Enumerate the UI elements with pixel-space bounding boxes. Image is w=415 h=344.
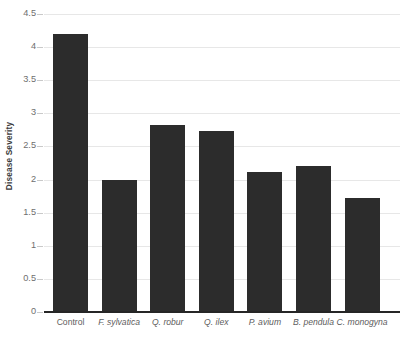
y-axis-tick-label: 0.5 [2, 274, 36, 283]
x-axis-baseline [44, 311, 400, 313]
y-axis-tick-label: 1.5 [2, 208, 36, 217]
y-axis-tick-mark [37, 146, 43, 147]
bar [296, 166, 331, 312]
y-axis-tick-mark [37, 47, 43, 48]
bar [102, 180, 137, 312]
y-axis-tick-label: 3 [2, 109, 36, 118]
y-axis-tick-label: 4.5 [2, 9, 36, 18]
y-axis-tick-mark [37, 14, 43, 15]
bar [199, 131, 234, 312]
y-axis-tick-mark [37, 312, 43, 313]
bars-group [44, 14, 400, 312]
y-axis-tick-labels: 4.543.532.521.510.50 [0, 14, 36, 312]
bar [345, 198, 380, 312]
y-axis-tick-label: 1 [2, 241, 36, 250]
y-axis-tick-mark [37, 80, 43, 81]
bar-chart-figure: Disease Severity 4.543.532.521.510.50 Co… [0, 0, 415, 344]
y-axis-tick-mark [37, 113, 43, 114]
y-axis-tick-mark [37, 213, 43, 214]
bar [247, 172, 282, 312]
y-axis-tick-label: 2.5 [2, 142, 36, 151]
x-axis-category-labels: ControlF. sylvaticaQ. roburQ. ilexP. avi… [44, 318, 404, 338]
y-axis-tick-label: 3.5 [2, 76, 36, 85]
y-axis-tick-label: 4 [2, 43, 36, 52]
plot-area [44, 14, 400, 312]
bar [53, 34, 88, 312]
bar [150, 125, 185, 312]
y-axis-tick-label: 2 [2, 175, 36, 184]
x-axis-category-label: C. monogyna [330, 318, 394, 327]
y-axis-tick-mark [37, 279, 43, 280]
y-axis-tick-mark [37, 246, 43, 247]
y-axis-tick-mark [37, 180, 43, 181]
y-axis-tick-label: 0 [2, 307, 36, 316]
